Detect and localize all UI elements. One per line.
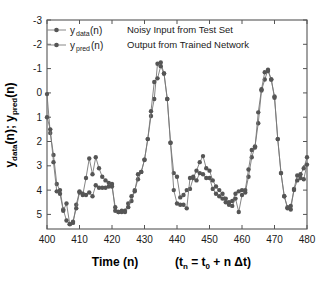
y-tick-label: 3 xyxy=(36,160,42,171)
series-point xyxy=(237,210,241,214)
series-point xyxy=(302,177,306,181)
series-point xyxy=(168,141,172,145)
y-tick-label: 0 xyxy=(36,87,42,98)
series-point xyxy=(211,187,215,191)
series-point xyxy=(282,194,286,198)
y-tick-label: 2 xyxy=(36,136,42,147)
series-point xyxy=(227,200,231,204)
series-point xyxy=(48,127,52,131)
legend-label-ypred-suffix: (n) xyxy=(91,40,103,51)
series-point xyxy=(45,92,49,96)
series-point xyxy=(230,204,234,208)
series-point xyxy=(201,154,205,158)
y-tick-label: -2 xyxy=(33,39,42,50)
series-point xyxy=(194,178,198,182)
legend-label-ypred-main: y xyxy=(70,40,75,51)
series-point xyxy=(87,190,91,194)
series-point xyxy=(64,201,68,205)
y-title-mid: (n); y xyxy=(3,115,17,145)
legend-label-ydata-main: y xyxy=(70,25,75,36)
series-point xyxy=(207,168,211,172)
series-point xyxy=(253,145,257,149)
series-point xyxy=(220,196,224,200)
series-point xyxy=(84,176,88,180)
series-point xyxy=(133,189,137,193)
chart-figure: 400410420430440450460470480 543210-1-2-3… xyxy=(0,0,331,283)
series-point xyxy=(246,167,250,171)
x-title-paren: (t xyxy=(175,255,183,269)
chart-plot-area: 400410420430440450460470480 543210-1-2-3… xyxy=(0,0,331,283)
series-point xyxy=(129,194,133,198)
x-tick-label: 440 xyxy=(169,234,186,245)
series-point xyxy=(185,206,189,210)
legend-note-ypred: Output from Trained Network xyxy=(127,39,249,50)
series-point xyxy=(110,184,114,188)
series-point xyxy=(123,210,127,214)
y-title-sub2: pred xyxy=(10,98,19,115)
legend-marker-ypred xyxy=(54,43,59,48)
series-point xyxy=(51,153,55,157)
series-point xyxy=(233,196,237,200)
y-tick-label: -1 xyxy=(33,63,42,74)
series-point xyxy=(181,193,185,197)
legend-marker-ydata xyxy=(54,28,59,33)
legend-label-ydata-sub: data xyxy=(76,30,90,37)
y-title-end: (n) xyxy=(3,82,17,97)
series-point xyxy=(302,166,306,170)
y-tick-label: 5 xyxy=(36,209,42,220)
x-tick-label: 480 xyxy=(299,234,316,245)
series-point xyxy=(243,188,247,192)
series-point xyxy=(90,172,94,176)
series-point xyxy=(142,158,146,162)
series-point xyxy=(126,205,130,209)
x-tick-label: 400 xyxy=(39,234,56,245)
x-tick-label: 470 xyxy=(266,234,283,245)
series-point xyxy=(113,205,117,209)
series-point xyxy=(71,220,75,224)
series-point xyxy=(292,188,296,192)
series-point xyxy=(256,110,260,114)
series-point xyxy=(149,109,153,113)
series-point xyxy=(165,97,169,101)
series-point xyxy=(55,182,59,186)
x-title-rest: + n Δt) xyxy=(210,255,251,269)
series-point xyxy=(162,71,166,75)
x-axis-title-text: Time (n) xyxy=(92,255,138,269)
series-point xyxy=(94,155,98,159)
series-point xyxy=(207,176,211,180)
legend-label-ydata-suffix: (n) xyxy=(90,25,102,36)
series-point xyxy=(305,155,309,159)
series-point xyxy=(272,96,276,100)
series-point xyxy=(159,64,163,68)
series-point xyxy=(240,193,244,197)
series-point xyxy=(139,170,143,174)
y-tick-label: 1 xyxy=(36,112,42,123)
series-point xyxy=(175,175,179,179)
series-point xyxy=(181,203,185,207)
series-point xyxy=(305,162,309,166)
series-point xyxy=(289,204,293,208)
series-point xyxy=(279,171,283,175)
series-point xyxy=(269,77,273,81)
series-point xyxy=(155,76,159,80)
series-point xyxy=(146,137,150,141)
series-point xyxy=(100,175,104,179)
series-point xyxy=(87,156,91,160)
series-point xyxy=(51,160,55,164)
series-point xyxy=(61,209,65,213)
x-tick-label: 410 xyxy=(71,234,88,245)
legend-note-ydata: Noisy Input from Test Set xyxy=(127,24,233,35)
series-point xyxy=(198,160,202,164)
series-point xyxy=(152,80,156,84)
x-title-eq: = t xyxy=(188,255,206,269)
series-point xyxy=(191,175,195,179)
series-point xyxy=(90,194,94,198)
x-tick-label: 450 xyxy=(201,234,218,245)
series-point xyxy=(64,218,68,222)
series-point xyxy=(259,87,263,91)
series-point xyxy=(58,192,62,196)
series-point xyxy=(45,115,49,119)
series-point xyxy=(266,69,270,73)
series-point xyxy=(217,188,221,192)
series-point xyxy=(74,206,78,210)
